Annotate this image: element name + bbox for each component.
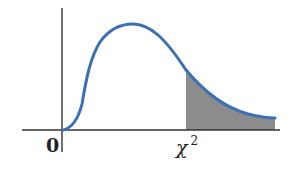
chi-superscript: 2: [191, 134, 199, 148]
density-curve: [63, 24, 275, 130]
chi-square-label: χ2: [174, 134, 198, 158]
shaded-tail-area: [186, 70, 275, 130]
chi-square-chart: 0 χ2: [0, 0, 296, 171]
chi-symbol: χ: [174, 136, 189, 158]
origin-label: 0: [46, 134, 59, 156]
